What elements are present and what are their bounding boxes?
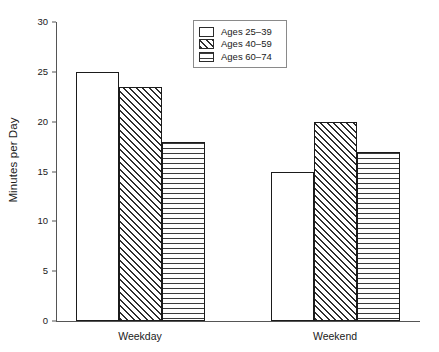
legend-swatch-ages-40-59-icon — [199, 39, 214, 49]
y-tick-mark-30 — [52, 22, 56, 23]
bar-chart: Minutes per Day 30 25 20 15 10 5 0 Weekd… — [0, 0, 439, 352]
y-tick-mark-5 — [52, 271, 56, 272]
y-axis-line — [56, 22, 57, 321]
bar-weekday-ages-25-39 — [76, 72, 119, 321]
legend-label-ages-25-39: Ages 25–39 — [221, 27, 272, 37]
bar-weekend-ages-60-74 — [357, 152, 400, 321]
bar-weekday-ages-40-59 — [119, 87, 162, 321]
legend-swatch-ages-25-39-icon — [199, 27, 214, 37]
bar-weekend-ages-25-39 — [271, 172, 314, 322]
legend: Ages 25–39 Ages 40–59 Ages 60–74 — [193, 20, 287, 68]
y-tick-label-10: 10 — [28, 217, 48, 227]
x-tick-label-weekday: Weekday — [118, 330, 162, 342]
y-tick-mark-25 — [52, 71, 56, 72]
legend-swatch-ages-60-74-icon — [199, 52, 214, 62]
y-axis-title-text: Minutes per Day — [7, 117, 19, 202]
y-tick-label-30: 30 — [28, 17, 48, 27]
x-axis-line — [56, 321, 420, 322]
bar-weekday-ages-60-74 — [162, 142, 205, 321]
legend-item-ages-40-59: Ages 40–59 — [199, 38, 279, 50]
legend-item-ages-60-74: Ages 60–74 — [199, 51, 279, 63]
legend-item-ages-25-39: Ages 25–39 — [199, 26, 279, 38]
y-tick-label-5: 5 — [28, 266, 48, 276]
y-tick-mark-15 — [52, 171, 56, 172]
y-axis-title: Minutes per Day — [2, 0, 24, 320]
y-tick-label-25: 25 — [28, 67, 48, 77]
legend-label-ages-40-59: Ages 40–59 — [221, 39, 272, 49]
legend-label-ages-60-74: Ages 60–74 — [221, 52, 272, 62]
y-tick-mark-10 — [52, 221, 56, 222]
y-tick-label-0: 0 — [28, 316, 48, 326]
x-tick-label-weekend: Weekend — [313, 330, 357, 342]
y-tick-label-15: 15 — [28, 167, 48, 177]
y-tick-label-20: 20 — [28, 117, 48, 127]
y-tick-mark-20 — [52, 121, 56, 122]
bar-weekend-ages-40-59 — [314, 122, 357, 321]
y-tick-mark-0 — [52, 321, 56, 322]
